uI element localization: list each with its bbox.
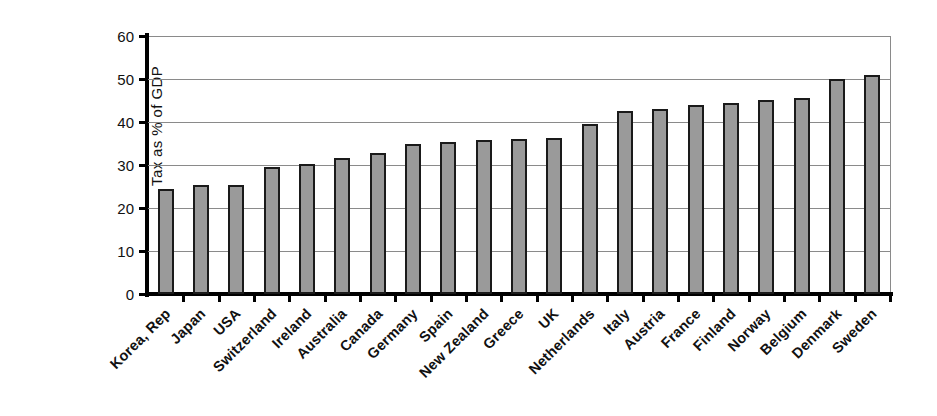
y-tick-label: 60 xyxy=(96,29,134,44)
bar xyxy=(228,185,244,294)
x-tick-mark xyxy=(571,296,574,302)
y-tick-label: 0 xyxy=(96,287,134,302)
gridline xyxy=(148,79,890,80)
bar xyxy=(617,111,633,294)
x-tick-mark xyxy=(536,296,539,302)
x-tick-mark xyxy=(748,296,751,302)
x-tick-mark xyxy=(500,296,503,302)
x-tick-mark xyxy=(288,296,291,302)
x-tick-mark xyxy=(642,296,645,302)
y-tick-label: 10 xyxy=(96,244,134,259)
bar xyxy=(299,164,315,294)
bar xyxy=(264,167,280,294)
gridline xyxy=(148,122,890,123)
y-tick-label: 30 xyxy=(96,158,134,173)
y-tick-mark xyxy=(139,121,146,124)
bar xyxy=(440,142,456,294)
y-tick-label: 50 xyxy=(96,72,134,87)
x-tick-mark xyxy=(677,296,680,302)
x-tick-mark xyxy=(253,296,256,302)
y-tick-mark xyxy=(139,164,146,167)
x-tick-mark xyxy=(854,296,857,302)
bar xyxy=(794,98,810,294)
bar xyxy=(546,138,562,294)
bar xyxy=(688,105,704,294)
bar xyxy=(158,189,174,294)
y-axis-title: Tax as % of GDP xyxy=(44,0,66,74)
x-tick-mark xyxy=(889,296,892,302)
y-tick-label: 40 xyxy=(96,115,134,130)
x-tick-mark xyxy=(359,296,362,302)
x-tick-mark xyxy=(430,296,433,302)
x-tick-mark xyxy=(465,296,468,302)
y-tick-mark xyxy=(139,78,146,81)
x-tick-mark xyxy=(783,296,786,302)
x-tick-mark xyxy=(182,296,185,302)
x-tick-mark xyxy=(218,296,221,302)
bar xyxy=(334,158,350,294)
y-tick-mark xyxy=(139,35,146,38)
y-tick-mark xyxy=(139,293,146,296)
bar xyxy=(193,185,209,294)
bar xyxy=(370,153,386,294)
x-tick-mark xyxy=(606,296,609,302)
bar-chart: Tax as % of GDP 6050403020100 Korea, Rep… xyxy=(0,0,937,416)
bar xyxy=(405,144,421,294)
x-tick-mark xyxy=(394,296,397,302)
bar xyxy=(829,79,845,294)
bar xyxy=(864,75,880,294)
y-tick-mark xyxy=(139,250,146,253)
bar xyxy=(511,139,527,294)
x-tick-mark xyxy=(324,296,327,302)
bar xyxy=(723,103,739,294)
y-tick-mark xyxy=(139,207,146,210)
bar xyxy=(582,124,598,294)
bar xyxy=(758,100,774,294)
x-tick-mark xyxy=(818,296,821,302)
bar xyxy=(652,109,668,294)
y-tick-label: 20 xyxy=(96,201,134,216)
bar xyxy=(476,140,492,294)
x-tick-mark xyxy=(712,296,715,302)
